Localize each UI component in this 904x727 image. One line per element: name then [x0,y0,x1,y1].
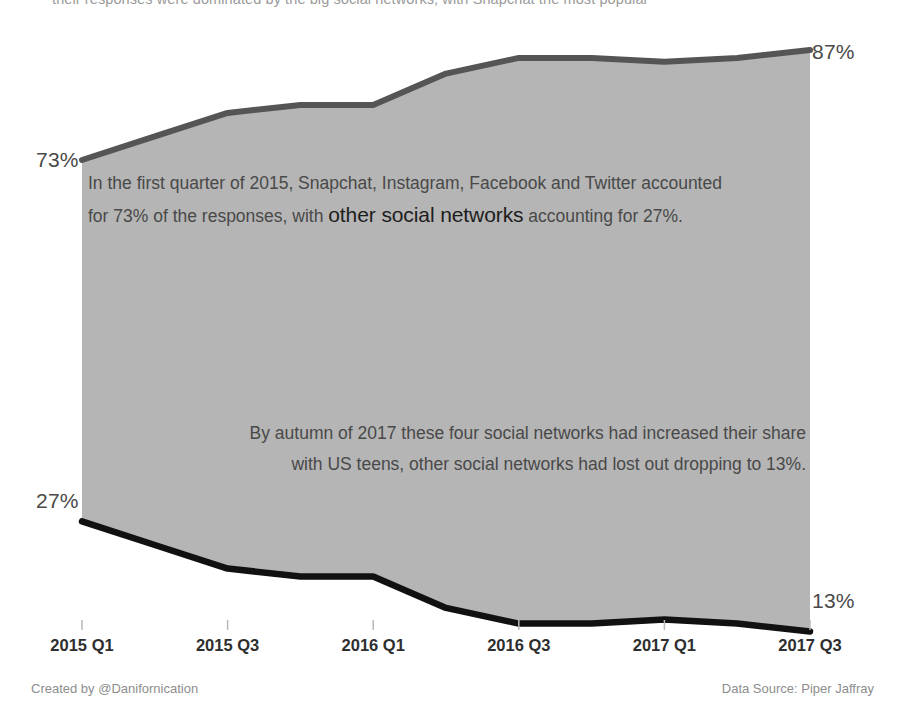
area-chart-svg [0,0,904,727]
value-label-lower-end: 13% [812,589,855,613]
annotation-first-quarter-line2-before: for 73% of the responses, with [88,206,328,226]
x-axis-label-2017-q3: 2017 Q3 [778,636,841,655]
annotation-first-quarter-line1: In the first quarter of 2015, Snapchat, … [88,168,722,199]
annotation-autumn-2017: By autumn of 2017 these four social netw… [186,418,806,480]
value-label-upper-start: 73% [36,148,79,172]
x-axis-label-2015-q1: 2015 Q1 [50,636,113,655]
annotation-autumn-2017-line1: By autumn of 2017 these four social netw… [186,418,806,449]
annotation-first-quarter-line2-after: accounting for 27%. [523,206,683,226]
annotation-first-quarter-emphasis: other social networks [328,203,523,226]
chart-root: their responses were dominated by the bi… [0,0,904,727]
x-axis-labels: 2015 Q12015 Q32016 Q12016 Q32017 Q12017 … [0,636,904,662]
shaded-area-between-series [82,50,810,631]
annotation-autumn-2017-line2: with US teens, other social networks had… [186,449,806,480]
x-axis-label-2016-q3: 2016 Q3 [487,636,550,655]
footer-data-source: Data Source: Piper Jaffray [722,681,874,696]
annotation-first-quarter: In the first quarter of 2015, Snapchat, … [88,168,722,232]
x-axis-label-2016-q1: 2016 Q1 [342,636,405,655]
value-label-lower-start: 27% [36,489,79,513]
footer-credit: Created by @Danifornication [31,681,198,696]
x-axis-label-2015-q3: 2015 Q3 [196,636,259,655]
annotation-first-quarter-line2: for 73% of the responses, with other soc… [88,199,722,232]
x-axis-label-2017-q1: 2017 Q1 [633,636,696,655]
value-label-upper-end: 87% [812,40,855,64]
